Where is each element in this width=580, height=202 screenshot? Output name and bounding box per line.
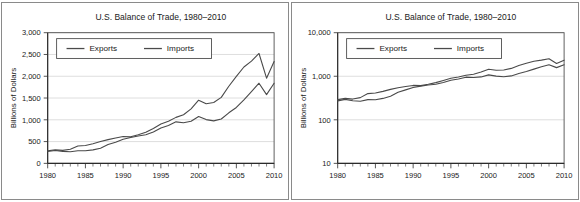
x-tick-label-1-4: 2000: [480, 171, 497, 180]
linear-chart-root: U.S. Balance of Trade, 1980–2010Billions…: [9, 12, 283, 180]
x-tick-label-0-0: 1980: [39, 171, 56, 180]
trade-charts-figure: U.S. Balance of Trade, 1980–2010Billions…: [0, 0, 580, 202]
log-chart-root: U.S. Balance of Trade, 1980–2010Billions…: [299, 12, 573, 180]
legend-label-imports-1: Imports: [457, 44, 484, 53]
legend-label-exports-0: Exports: [89, 44, 117, 53]
series-line-imports-1: [338, 59, 564, 100]
y-tick-label-1-2: 1,000: [312, 72, 331, 81]
y-tick-label-0-4: 2,000: [22, 72, 41, 81]
linear-chart-svg: U.S. Balance of Trade, 1980–2010Billions…: [2, 3, 288, 199]
y-tick-label-0-1: 500: [28, 137, 41, 146]
y-tick-label-0-6: 3,000: [22, 28, 41, 37]
chart-title-0: U.S. Balance of Trade, 1980–2010: [95, 12, 226, 22]
log-chart-svg: U.S. Balance of Trade, 1980–2010Billions…: [292, 3, 578, 199]
x-tick-label-1-2: 1990: [405, 171, 422, 180]
x-tick-label-0-3: 1995: [153, 171, 170, 180]
x-tick-label-1-6: 2010: [556, 171, 573, 180]
y-tick-label-1-0: 10: [322, 159, 330, 168]
x-tick-label-1-5: 2005: [518, 171, 535, 180]
series-line-exports-1: [338, 65, 564, 102]
chart-panel-log: U.S. Balance of Trade, 1980–2010Billions…: [291, 2, 579, 200]
legend-label-imports-0: Imports: [167, 44, 194, 53]
x-tick-label-1-0: 1980: [329, 171, 346, 180]
x-tick-label-0-1: 1985: [77, 171, 94, 180]
chart-title-1: U.S. Balance of Trade, 1980–2010: [385, 12, 516, 22]
legend-label-exports-1: Exports: [379, 44, 407, 53]
y-axis-label-0: Billions of Dollars: [9, 68, 18, 129]
y-tick-label-0-0: 0: [37, 159, 41, 168]
x-tick-label-1-1: 1985: [367, 171, 384, 180]
y-axis-label-1: Billions of Dollars: [299, 68, 308, 129]
x-tick-label-0-5: 2005: [228, 171, 245, 180]
x-tick-label-0-4: 2000: [190, 171, 207, 180]
y-tick-label-0-5: 2,500: [22, 50, 41, 59]
y-tick-label-0-2: 1,000: [22, 116, 41, 125]
y-tick-label-0-3: 1,500: [22, 94, 41, 103]
x-tick-label-1-3: 1995: [443, 171, 460, 180]
x-tick-label-0-6: 2010: [266, 171, 283, 180]
chart-panel-linear: U.S. Balance of Trade, 1980–2010Billions…: [1, 2, 289, 200]
series-line-imports-0: [48, 53, 274, 150]
x-tick-label-0-2: 1990: [115, 171, 132, 180]
y-tick-label-1-3: 10,000: [308, 28, 331, 37]
y-tick-label-1-1: 100: [318, 116, 331, 125]
